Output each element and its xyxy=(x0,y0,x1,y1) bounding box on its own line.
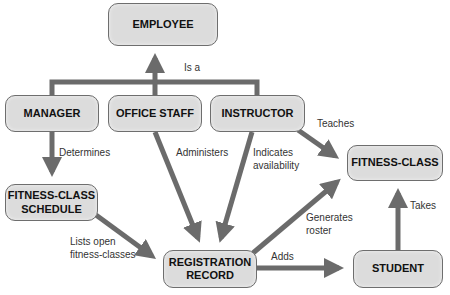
edge-label-takes: Takes xyxy=(410,200,436,213)
node-instructor-label: INSTRUCTOR xyxy=(222,107,294,120)
edge-label-lists-line1: Lists open xyxy=(70,236,136,249)
node-registration-label-line2: RECORD xyxy=(186,269,234,282)
node-office-staff: OFFICE STAFF xyxy=(108,95,202,132)
node-fitness-class: FITNESS-CLASS xyxy=(347,145,443,181)
edge-label-lists: Lists open fitness-classes xyxy=(70,236,136,261)
node-manager-label: MANAGER xyxy=(24,107,81,120)
edge-label-adds: Adds xyxy=(271,251,294,264)
edge-label-indicates-line2: availability xyxy=(253,160,299,173)
node-employee-label: EMPLOYEE xyxy=(132,18,193,31)
edge-label-administers: Administers xyxy=(176,147,228,160)
edge-label-indicates-line1: Indicates xyxy=(253,147,299,160)
edge-label-generates-line1: Generates xyxy=(306,212,353,225)
node-student-label: STUDENT xyxy=(372,262,424,275)
edge-label-generates-line2: roster xyxy=(306,225,353,238)
edge-label-is-a: Is a xyxy=(184,62,200,75)
edge-teaches xyxy=(298,130,335,156)
node-manager: MANAGER xyxy=(5,95,99,132)
edge-label-indicates: Indicates availability xyxy=(253,147,299,172)
edge-label-generates: Generates roster xyxy=(306,212,353,237)
edge-label-lists-line2: fitness-classes xyxy=(70,249,136,262)
node-instructor: INSTRUCTOR xyxy=(210,95,305,132)
node-fitness-class-schedule: FITNESS-CLASS SCHEDULE xyxy=(5,184,98,221)
node-office-staff-label: OFFICE STAFF xyxy=(116,107,194,120)
edge-label-determines: Determines xyxy=(59,147,110,160)
node-schedule-label-line1: FITNESS-CLASS xyxy=(8,189,95,202)
node-registration-label-line1: REGISTRATION xyxy=(169,256,251,269)
node-employee: EMPLOYEE xyxy=(108,3,218,46)
node-fitness-class-label: FITNESS-CLASS xyxy=(351,156,438,169)
edge-label-teaches: Teaches xyxy=(317,118,354,131)
node-schedule-label-line2: SCHEDULE xyxy=(21,203,82,216)
node-registration-record: REGISTRATION RECORD xyxy=(163,250,257,288)
node-student: STUDENT xyxy=(353,250,443,288)
